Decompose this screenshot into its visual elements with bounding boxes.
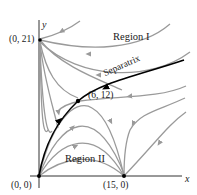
- region-2-label: Region II: [65, 154, 105, 165]
- equilibrium-label-0-0: (0, 0): [11, 181, 32, 191]
- equilibrium-label-0-21: (0, 21): [9, 35, 34, 45]
- equilibrium-label-15-0: (15, 0): [103, 181, 128, 191]
- left-trajectories: [40, 40, 122, 132]
- y-axis-label: y: [42, 20, 46, 30]
- x-axis-label: x: [185, 174, 189, 184]
- phase-portrait: y x (0, 21) (0, 0) (15, 0) (6, 12) Regio…: [0, 0, 197, 195]
- region-2-trajectories: [39, 106, 125, 176]
- equilibrium-label-6-12: (6, 12): [88, 91, 113, 101]
- axes: [30, 20, 182, 188]
- region-1-label: Region I: [113, 32, 149, 43]
